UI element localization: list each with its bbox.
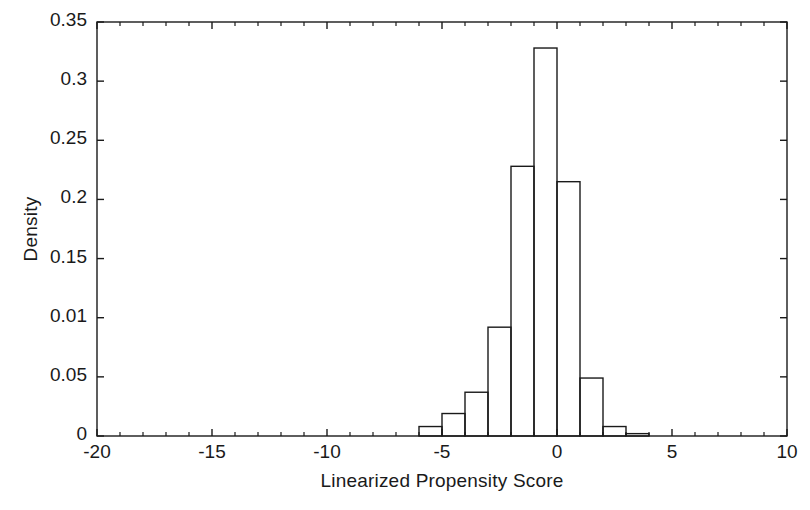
plot-area xyxy=(0,0,810,510)
axis-box xyxy=(97,22,787,436)
histogram-bar xyxy=(488,327,511,436)
histogram-bar xyxy=(580,378,603,436)
histogram-bar xyxy=(465,392,488,436)
histogram-bar xyxy=(511,166,534,436)
histogram-bar xyxy=(534,48,557,436)
histogram-bar xyxy=(557,182,580,436)
histogram-bar xyxy=(603,427,626,436)
histogram-bar xyxy=(419,427,442,436)
axis-box-rect xyxy=(97,22,787,436)
histogram-figure: Density Linearized Propensity Score 00.0… xyxy=(0,0,810,510)
histogram-bar xyxy=(626,434,649,436)
histogram-bars xyxy=(419,48,649,436)
histogram-bar xyxy=(442,414,465,436)
axis-ticks xyxy=(97,22,787,436)
